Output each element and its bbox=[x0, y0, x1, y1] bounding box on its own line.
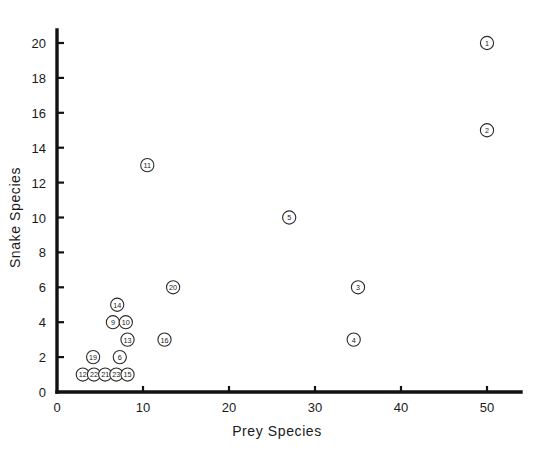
data-point-label: 19 bbox=[89, 353, 97, 362]
data-point-label: 10 bbox=[122, 318, 130, 327]
data-point: 20 bbox=[167, 281, 180, 294]
data-point: 10 bbox=[119, 316, 132, 329]
data-point: 4 bbox=[347, 333, 360, 346]
y-tick-label: 0 bbox=[39, 385, 46, 400]
y-tick-label: 12 bbox=[32, 176, 46, 191]
data-point: 3 bbox=[351, 281, 364, 294]
data-point: 9 bbox=[106, 316, 119, 329]
data-point-label: 1 bbox=[485, 39, 489, 48]
y-tick-label: 6 bbox=[39, 280, 46, 295]
data-point-label: 20 bbox=[169, 283, 177, 292]
y-axis-title: Snake Species bbox=[7, 167, 23, 268]
y-tick-label: 8 bbox=[39, 245, 46, 260]
data-point: 16 bbox=[158, 333, 171, 346]
chart-canvas: 0102030405002468101214161820Prey Species… bbox=[0, 0, 534, 451]
data-point-label: 14 bbox=[113, 301, 121, 310]
data-point-label: 12 bbox=[79, 370, 87, 379]
x-tick-label: 30 bbox=[308, 400, 322, 415]
y-tick-label: 4 bbox=[39, 315, 46, 330]
data-point-label: 2 bbox=[485, 126, 489, 135]
data-point-label: 23 bbox=[112, 370, 120, 379]
data-point: 6 bbox=[113, 351, 126, 364]
y-tick-label: 10 bbox=[32, 211, 46, 226]
data-point-label: 5 bbox=[287, 213, 291, 222]
data-point: 5 bbox=[283, 211, 296, 224]
x-tick-label: 20 bbox=[222, 400, 236, 415]
y-tick-label: 20 bbox=[32, 36, 46, 51]
data-point: 13 bbox=[121, 333, 134, 346]
data-point-label: 21 bbox=[101, 370, 109, 379]
data-point-label: 22 bbox=[90, 370, 98, 379]
x-axis-title: Prey Species bbox=[232, 423, 322, 439]
x-tick-label: 50 bbox=[480, 400, 494, 415]
scatter-plot-figure: 0102030405002468101214161820Prey Species… bbox=[0, 0, 534, 451]
data-point-label: 13 bbox=[124, 336, 132, 345]
data-point: 2 bbox=[480, 124, 493, 137]
data-point-label: 3 bbox=[356, 283, 360, 292]
y-tick-label: 18 bbox=[32, 71, 46, 86]
y-tick-label: 16 bbox=[32, 106, 46, 121]
data-point-label: 15 bbox=[124, 370, 132, 379]
y-tick-label: 14 bbox=[32, 141, 46, 156]
data-point: 11 bbox=[141, 159, 154, 172]
data-point: 19 bbox=[87, 351, 100, 364]
data-point: 1 bbox=[480, 36, 493, 49]
data-point-label: 9 bbox=[111, 318, 115, 327]
data-point-label: 4 bbox=[352, 336, 356, 345]
y-tick-label: 2 bbox=[39, 350, 46, 365]
data-point-label: 16 bbox=[161, 336, 169, 345]
x-tick-label: 40 bbox=[394, 400, 408, 415]
data-point-label: 6 bbox=[118, 353, 122, 362]
x-tick-label: 10 bbox=[136, 400, 150, 415]
data-point: 15 bbox=[121, 368, 134, 381]
data-point: 14 bbox=[111, 298, 124, 311]
x-tick-label: 0 bbox=[53, 400, 60, 415]
data-point-label: 11 bbox=[144, 161, 151, 170]
